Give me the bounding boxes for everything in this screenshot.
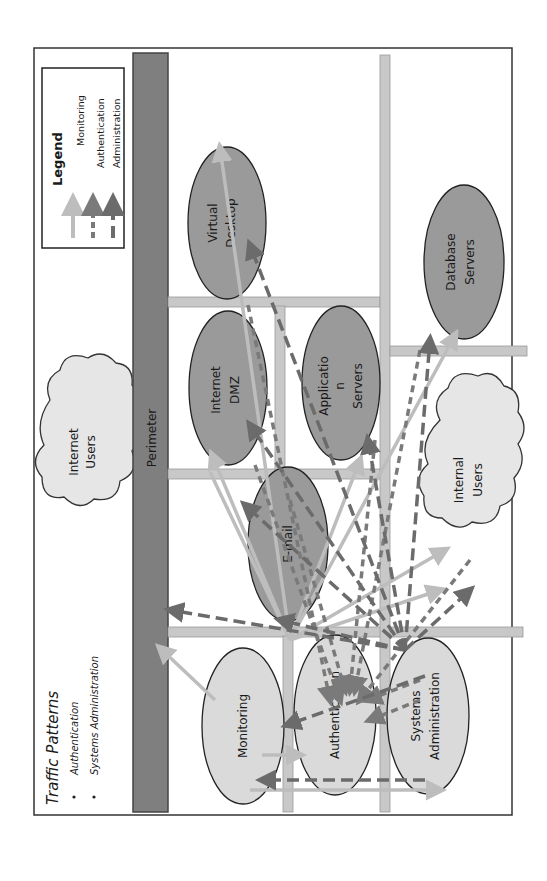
internet-users-label-line1: Internet (67, 428, 81, 476)
virtual-desktop-label-line1: Virtual (206, 203, 220, 242)
legend-label-authentication: Authentication (95, 98, 106, 168)
monitoring-label: Monitoring (236, 694, 250, 758)
node-systems-administration[interactable]: Systems Administration (387, 638, 469, 794)
internal-users-label-line2: Users (471, 463, 485, 497)
systems-administration-label-line2: Administration (428, 672, 442, 760)
traffic-patterns-title: Traffic Patterns (44, 691, 62, 805)
bullet-systems-administration: Systems Administration (89, 656, 100, 775)
application-servers-label-line1: Applicatio (317, 356, 331, 415)
internet-dmz-label-line2: DMZ (228, 376, 242, 404)
legend-title: Legend (50, 132, 65, 186)
node-email[interactable]: E-mail (248, 467, 328, 621)
internal-users-label-line1: Internal (452, 457, 466, 503)
legend-label-monitoring: Monitoring (75, 95, 86, 146)
node-authentication[interactable]: Authentication (294, 635, 376, 795)
internet-dmz-label-line1: Internet (209, 366, 223, 414)
application-servers-label-line3: Servers (351, 363, 365, 409)
systems-administration-label-line1: Systems (409, 691, 423, 742)
bullet-authentication: Authentication (69, 702, 80, 776)
database-servers-label-line2: Servers (463, 239, 477, 285)
internet-users-label-line2: Users (84, 435, 98, 469)
legend-label-administration: Administration (111, 98, 122, 168)
database-servers-label-line1: Database (444, 233, 458, 290)
node-application-servers[interactable]: Applicatio n Servers (302, 306, 380, 460)
legend: Legend Monitoring Authentication Adminis… (42, 68, 124, 248)
perimeter-label: Perimeter (145, 409, 159, 468)
node-virtual-desktop[interactable]: Virtual Desktop (188, 147, 266, 299)
perimeter-bar: Perimeter (133, 53, 168, 812)
network-traffic-diagram: Legend Monitoring Authentication Adminis… (0, 0, 547, 881)
application-servers-label-line2: n (333, 382, 347, 390)
node-database-servers[interactable]: Database Servers (424, 185, 504, 339)
